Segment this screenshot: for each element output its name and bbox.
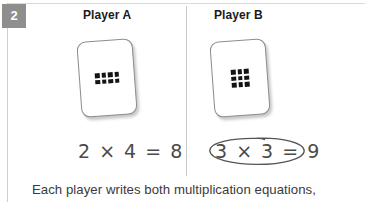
dot <box>95 73 100 78</box>
dot <box>108 79 113 84</box>
dot <box>95 80 100 85</box>
player-a-dot-array <box>95 72 120 85</box>
step-caption: Each player writes both multiplication e… <box>32 182 316 197</box>
dot <box>238 76 243 81</box>
dot <box>231 70 236 75</box>
column-header-player-b: Player B <box>214 8 263 22</box>
left-rule <box>7 3 8 202</box>
player-a-card <box>76 38 137 118</box>
top-rule <box>7 3 365 4</box>
dot <box>244 69 249 74</box>
dot <box>101 73 106 78</box>
player-b-dot-array <box>231 69 250 88</box>
dot <box>232 83 237 88</box>
dot <box>238 82 243 87</box>
worksheet-step-panel: 2 Player A Player B 2 × 4 = 8 <box>0 0 365 202</box>
dot <box>245 82 250 87</box>
dot <box>231 76 236 81</box>
dot <box>102 79 107 84</box>
dot <box>244 75 249 80</box>
dot <box>108 72 113 77</box>
column-header-player-a: Player A <box>83 8 131 22</box>
dot <box>114 72 119 77</box>
step-number-badge: 2 <box>2 4 26 28</box>
player-a-equation: 2 × 4 = 8 <box>78 140 184 162</box>
player-b-card <box>209 38 270 118</box>
dot <box>115 78 120 83</box>
dot <box>237 69 242 74</box>
player-b-equation: 3 × 3 = 9 <box>215 140 321 162</box>
column-divider-rule <box>186 6 187 176</box>
